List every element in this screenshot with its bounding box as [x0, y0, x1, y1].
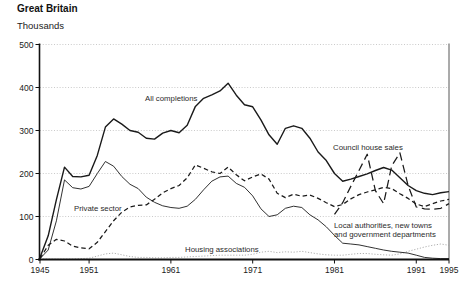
x-tick-label-1945: 1945	[31, 265, 50, 275]
y-tick-label-100: 100	[19, 212, 33, 222]
private-sector-label: Private sector	[74, 204, 122, 213]
line-chart-canvas: 0100200300400500194519511961197119811991…	[0, 0, 470, 290]
x-tick-label-1971: 1971	[243, 265, 262, 275]
all-completions-label: All completions	[145, 94, 198, 103]
housing-associations-label: Housing associations	[185, 245, 259, 254]
x-tick-label-1991: 1991	[407, 265, 426, 275]
x-tick-label-1995: 1995	[440, 265, 459, 275]
local-authorities-label: Local authorities, new towns	[334, 221, 432, 230]
x-tick-label-1961: 1961	[161, 265, 180, 275]
y-tick-label-200: 200	[19, 169, 33, 179]
series-council-house-sales-line	[335, 153, 450, 214]
x-tick-label-1951: 1951	[80, 265, 99, 275]
housebuilding-completions-chart: Great Britain Thousands 0100200300400500…	[0, 0, 470, 290]
x-tick-label-1981: 1981	[325, 265, 344, 275]
local-authorities-label: and government departments	[334, 230, 436, 239]
y-tick-label-0: 0	[29, 255, 34, 265]
y-tick-label-300: 300	[19, 126, 33, 136]
council-house-sales-label: Council house sales	[333, 143, 403, 152]
y-tick-label-500: 500	[19, 40, 33, 50]
y-tick-label-400: 400	[19, 83, 33, 93]
